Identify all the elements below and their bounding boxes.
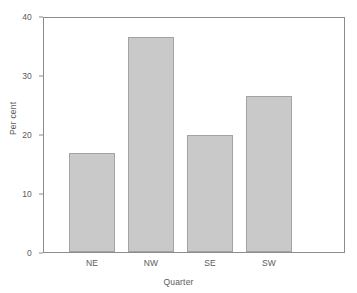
x-axis-title: Quarter [0, 277, 357, 287]
y-tick-label-10: 10 [0, 189, 32, 199]
x-tick-label-sw: SW [246, 258, 292, 268]
plot-area [43, 17, 345, 253]
x-tick-label-nw: NW [128, 258, 174, 268]
x-tick-label-se: SE [187, 258, 233, 268]
bar-nw [128, 37, 174, 252]
bar-chart: Per cent 0 10 20 30 40 NE NW SE SW Quart… [0, 0, 357, 293]
x-tick-label-ne: NE [69, 258, 115, 268]
y-tick-label-40: 40 [0, 12, 32, 22]
bar-se [187, 135, 233, 252]
bar-ne [69, 153, 115, 252]
y-tick-label-0: 0 [0, 248, 32, 258]
bar-sw [246, 96, 292, 252]
y-tick-label-20: 20 [0, 130, 32, 140]
y-tick-label-30: 30 [0, 71, 32, 81]
